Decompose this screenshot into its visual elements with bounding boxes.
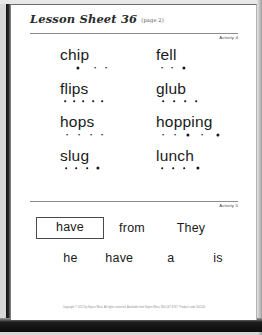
phonics-word-block: hops [60, 114, 94, 130]
phonics-word-block: chip [60, 47, 89, 63]
sound-dot [196, 166, 199, 169]
sight-word[interactable]: is [198, 252, 238, 265]
sound-dot-row [60, 98, 89, 104]
word-cell: flips [30, 81, 134, 97]
sound-dot [76, 66, 79, 69]
sound-dot [216, 133, 219, 136]
activity5-sight-words: havefromTheyhehaveais [30, 213, 238, 273]
worksheet-scan: Lesson Sheet 36 (page 2) Activity 4 chip… [0, 0, 262, 335]
phonics-word-block: glub [156, 81, 186, 97]
sight-word[interactable]: They [160, 222, 222, 235]
scan-edge-right [257, 0, 262, 335]
sound-dot [65, 167, 67, 169]
sound-dot [105, 67, 107, 69]
word-cell: lunch [134, 148, 238, 164]
phonics-word-block: lunch [156, 148, 194, 164]
word-cell: hops [30, 114, 134, 130]
word-row: flipsglub [30, 81, 238, 115]
sound-dot [86, 167, 88, 169]
page-title: Lesson Sheet 36 [30, 12, 137, 26]
phonics-word: fell [156, 47, 177, 63]
sight-word[interactable]: from [104, 222, 160, 235]
phonics-word-block: hopping [156, 114, 213, 130]
sound-dot [161, 67, 163, 69]
sound-dot-row [156, 165, 194, 171]
sound-dot [186, 133, 189, 136]
sound-dot [94, 67, 96, 69]
sound-dot-row [60, 165, 89, 171]
phonics-word-block: fell [156, 47, 177, 63]
sound-dot [173, 100, 175, 102]
sound-dot [195, 100, 197, 102]
phonics-word-block: slug [60, 148, 89, 164]
sound-dot [73, 100, 75, 102]
word-cell: fell [134, 47, 238, 63]
phonics-word: hops [60, 114, 94, 130]
page-header: Lesson Sheet 36 (page 2) [30, 12, 164, 26]
sound-dot [96, 166, 99, 169]
sound-dot [75, 167, 77, 169]
page-subtitle: (page 2) [141, 17, 164, 23]
sound-dot [184, 100, 186, 102]
sound-dot [174, 134, 176, 136]
sound-dot-row [156, 132, 213, 138]
sight-word[interactable]: a [144, 252, 198, 265]
worksheet-page: Lesson Sheet 36 (page 2) Activity 4 chip… [11, 4, 257, 320]
sound-dot [64, 100, 66, 102]
word-row: hopshopping [30, 114, 238, 148]
activity4-divider [30, 33, 238, 34]
sound-dot [182, 66, 185, 69]
activity4-label: Activity 4 [30, 35, 238, 40]
sound-dot-row [60, 132, 94, 138]
word-row: chipfell [30, 47, 238, 81]
sound-dot [66, 134, 68, 136]
sound-dot-row [156, 98, 186, 104]
phonics-word: flips [60, 81, 89, 97]
sound-dot-row [60, 65, 89, 71]
sound-dot-row [156, 65, 177, 71]
sight-word-row: havefromThey [30, 213, 238, 243]
phonics-word: slug [60, 148, 89, 164]
sound-dot [201, 134, 203, 136]
sound-dot [171, 67, 173, 69]
copyright-notice: Copyright © 2012 by Sopris West. All rig… [11, 306, 257, 309]
sound-dot [90, 134, 92, 136]
sound-dot [82, 100, 84, 102]
sound-dot [183, 167, 185, 169]
word-cell: slug [30, 148, 134, 164]
activity5-divider [30, 201, 238, 202]
sound-dot [101, 134, 103, 136]
sound-dot [78, 134, 80, 136]
word-cell: hopping [134, 114, 238, 130]
sound-dot [161, 167, 163, 169]
word-row: sluglunch [30, 148, 238, 182]
phonics-word: glub [156, 81, 186, 97]
sight-word[interactable]: have [95, 252, 144, 265]
sound-dot [162, 100, 164, 102]
sight-word-row: hehaveais [30, 243, 238, 273]
sound-dot [162, 134, 164, 136]
phonics-word: hopping [156, 114, 213, 130]
sound-dot [92, 100, 94, 102]
phonics-word: chip [60, 47, 89, 63]
phonics-word-block: flips [60, 81, 89, 97]
sight-word[interactable]: he [46, 252, 95, 265]
sound-dot [172, 167, 174, 169]
scan-edge-bottom [0, 318, 262, 332]
phonics-word: lunch [156, 148, 194, 164]
sight-word-boxed[interactable]: have [36, 217, 104, 239]
word-cell: chip [30, 47, 134, 63]
activity4-word-grid: chipfellflipsglubhopshoppingsluglunch [30, 47, 238, 181]
activity5-label: Activity 5 [30, 203, 238, 208]
word-cell: glub [134, 81, 238, 97]
sound-dot [101, 100, 103, 102]
